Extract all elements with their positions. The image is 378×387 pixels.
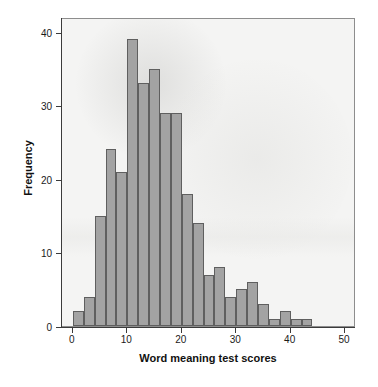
y-axis-tick: [56, 33, 61, 34]
x-axis-tick: [344, 328, 345, 333]
y-axis-tick: [56, 106, 61, 107]
histogram-bar: [127, 39, 138, 326]
y-axis-tick: [56, 253, 61, 254]
histogram-bar: [116, 172, 127, 327]
x-axis-tick: [181, 328, 182, 333]
y-axis-tick-label: 40: [30, 27, 52, 38]
histogram-bar: [280, 311, 291, 326]
y-axis-title: Frequency: [22, 98, 34, 238]
x-axis-tick: [72, 328, 73, 333]
x-axis-tick-label: 20: [175, 334, 186, 345]
histogram-bar: [182, 194, 193, 326]
x-axis-tick-label: 30: [230, 334, 241, 345]
x-axis-tick: [126, 328, 127, 333]
histogram-bar: [84, 297, 95, 326]
histogram-bar: [171, 113, 182, 326]
histogram-bar: [291, 319, 302, 326]
histogram-bar: [269, 319, 280, 326]
x-axis-line: [61, 327, 355, 328]
y-axis-tick-label: 0: [30, 322, 52, 333]
y-axis-tick-label: 10: [30, 248, 52, 259]
y-axis-tick: [56, 180, 61, 181]
histogram-bar: [236, 289, 247, 326]
histogram-bar: [160, 113, 171, 326]
x-axis-tick-label: 0: [69, 334, 75, 345]
x-axis-tick-label: 50: [339, 334, 350, 345]
histogram-bar: [149, 69, 160, 327]
histogram-bar: [204, 275, 215, 327]
x-axis-title: Word meaning test scores: [61, 352, 355, 364]
histogram-bar: [95, 216, 106, 326]
histogram-bar: [302, 319, 313, 326]
histogram-bar: [73, 311, 84, 326]
histogram-bar: [138, 83, 149, 326]
x-axis-tick: [290, 328, 291, 333]
histogram-bar: [225, 297, 236, 326]
x-axis-tick-label: 40: [284, 334, 295, 345]
plot-area: [61, 18, 355, 327]
histogram-figure: 01020304050 010203040 Word meaning test …: [0, 0, 378, 387]
x-axis-tick-label: 10: [121, 334, 132, 345]
histogram-bar: [193, 223, 204, 326]
histogram-bar: [258, 304, 269, 326]
y-axis-line: [61, 18, 62, 327]
histogram-bar: [214, 267, 225, 326]
histogram-bars: [62, 19, 354, 326]
y-axis-tick: [56, 327, 61, 328]
x-axis-tick: [235, 328, 236, 333]
histogram-bar: [106, 149, 117, 326]
histogram-bar: [247, 282, 258, 326]
